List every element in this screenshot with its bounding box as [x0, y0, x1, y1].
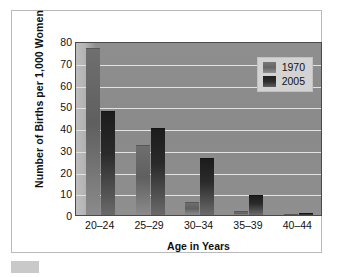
figure-frame: Number of Births per 1,000 Women 0102030… [11, 10, 322, 253]
bar-1970-30-34 [185, 202, 199, 215]
x-tick-label: 35–39 [233, 220, 262, 231]
x-tick-label: 25–29 [134, 220, 163, 231]
y-tick-label: 60 [50, 80, 72, 91]
legend-label-1970: 1970 [282, 62, 305, 73]
bar-2005-30-34 [200, 158, 214, 215]
y-tick-label: 50 [50, 102, 72, 113]
y-tick-label: 30 [50, 146, 72, 157]
bar-1970-35-39 [234, 211, 248, 215]
y-tick-label: 10 [50, 189, 72, 200]
x-tick-label: 30–34 [184, 220, 213, 231]
bar-group [136, 43, 165, 215]
plot-area: 1970 2005 [75, 42, 322, 216]
bar-group [185, 43, 214, 215]
bar-2005-40-44 [299, 213, 313, 215]
bar-1970-40-44 [284, 214, 298, 215]
legend-label-2005: 2005 [282, 76, 305, 87]
x-tick-label: 20–24 [85, 220, 114, 231]
x-axis-title: Age in Years [75, 240, 322, 252]
x-tick-label: 40–44 [283, 220, 312, 231]
bar-1970-20-24 [86, 48, 100, 215]
corner-tab [11, 261, 39, 273]
bar-2005-35-39 [249, 195, 263, 215]
y-tick-label: 0 [50, 211, 72, 222]
y-tick-label: 20 [50, 167, 72, 178]
y-axis-tick-labels: 01020304050607080 [50, 42, 72, 216]
y-tick-label: 70 [50, 59, 72, 70]
y-tick-label: 40 [50, 124, 72, 135]
legend-swatch-2005-icon [263, 76, 276, 87]
legend-swatch-1970-icon [263, 62, 276, 73]
legend-entry-1970: 1970 [263, 62, 305, 73]
bar-2005-25-29 [151, 128, 165, 215]
legend: 1970 2005 [257, 57, 313, 92]
y-tick-label: 80 [50, 37, 72, 48]
bar-2005-20-24 [101, 111, 115, 215]
x-axis-tick-labels: 20–2425–2930–3435–3940–44 [75, 220, 322, 234]
y-axis-title: Number of Births per 1,000 Women [33, 9, 45, 189]
legend-entry-2005: 2005 [263, 76, 305, 87]
bar-1970-25-29 [136, 145, 150, 215]
bar-group [86, 43, 115, 215]
